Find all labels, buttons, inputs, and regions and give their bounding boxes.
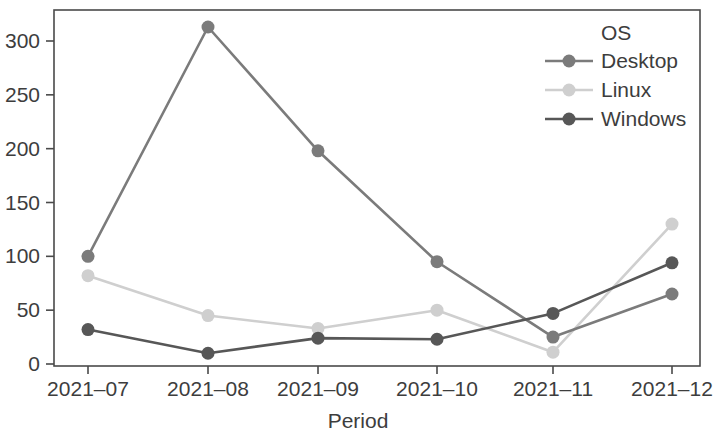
data-point (202, 21, 215, 34)
data-point (431, 333, 444, 346)
data-point (666, 288, 679, 301)
legend-marker-dot (563, 113, 576, 126)
x-axis-ticks (88, 366, 672, 374)
x-tick-label: 2021–07 (47, 377, 129, 400)
y-tick-label: 50 (17, 298, 40, 321)
chart-legend: OSDesktopLinuxWindows (545, 21, 686, 130)
series-line (88, 224, 672, 352)
data-point (547, 331, 560, 344)
data-point (666, 256, 679, 269)
data-point (431, 255, 444, 268)
series-windows (82, 256, 679, 359)
y-tick-label: 300 (5, 29, 40, 52)
x-tick-label: 2021–12 (631, 377, 713, 400)
y-tick-label: 100 (5, 244, 40, 267)
y-tick-label: 150 (5, 191, 40, 214)
series-line (88, 263, 672, 353)
data-point (547, 307, 560, 320)
data-point (202, 347, 215, 360)
y-axis-tick-labels: 050100150200250300 (5, 29, 40, 375)
series-desktop (82, 21, 679, 344)
legend-label: Linux (601, 78, 652, 101)
x-axis-title: Period (328, 409, 389, 432)
data-series-group (82, 21, 679, 360)
data-point (202, 309, 215, 322)
x-axis-tick-labels: 2021–072021–082021–092021–102021–112021–… (47, 377, 713, 400)
y-tick-label: 200 (5, 137, 40, 160)
x-tick-label: 2021–08 (167, 377, 249, 400)
data-point (82, 269, 95, 282)
legend-marker-dot (563, 84, 576, 97)
y-tick-label: 0 (28, 352, 40, 375)
x-tick-label: 2021–10 (396, 377, 478, 400)
y-axis-ticks (46, 41, 54, 364)
legend-label: Windows (601, 107, 686, 130)
legend-marker-dot (563, 55, 576, 68)
data-point (312, 144, 325, 157)
data-point (431, 304, 444, 317)
series-line (88, 27, 672, 337)
legend-title: OS (601, 21, 631, 44)
plot-area: 050100150200250300 2021–072021–082021–09… (0, 0, 716, 440)
data-point (312, 332, 325, 345)
legend-label: Desktop (601, 49, 678, 72)
data-point (666, 218, 679, 231)
x-tick-label: 2021–11 (513, 377, 593, 400)
data-point (547, 346, 560, 359)
y-tick-label: 250 (5, 83, 40, 106)
x-tick-label: 2021–09 (277, 377, 359, 400)
data-point (82, 323, 95, 336)
data-point (82, 250, 95, 263)
line-chart: 050100150200250300 2021–072021–082021–09… (0, 0, 716, 440)
